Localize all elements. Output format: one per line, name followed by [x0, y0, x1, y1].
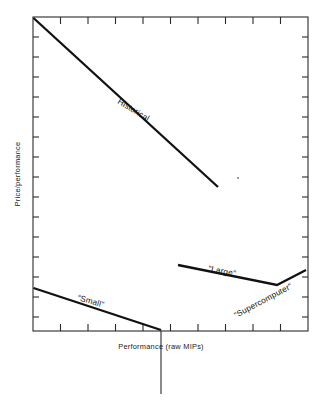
series-label-supercomputer: “Supercomputer” [233, 282, 294, 320]
price-performance-chart: Historical “Small” “Large” “Supercompute… [0, 0, 324, 404]
y-axis-ticks-right [302, 37, 308, 317]
series-label-large: “Large” [208, 264, 237, 278]
series-label-historical: Historical [116, 97, 151, 123]
x-axis-ticks-top [61, 17, 281, 24]
y-axis-title: Price/performance [13, 142, 22, 207]
y-axis-ticks-left [33, 37, 39, 317]
chart-figure: Historical “Small” “Large” “Supercompute… [0, 0, 324, 404]
series-line-small [34, 288, 162, 330]
x-axis-ticks-bottom [61, 324, 281, 331]
x-axis-title: Performance (raw MIPs) [118, 342, 204, 351]
print-speck [237, 177, 239, 179]
